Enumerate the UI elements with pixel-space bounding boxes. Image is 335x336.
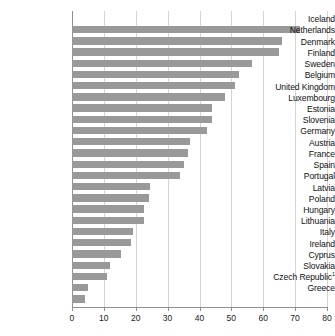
x-axis-tick-60 — [263, 307, 264, 311]
category-label-greece: Greece — [267, 283, 335, 293]
category-label-belgium: Belgium — [267, 70, 335, 80]
bar-row — [72, 260, 110, 271]
x-axis-tick-40 — [200, 307, 201, 311]
category-label-poland: Poland — [267, 194, 335, 204]
bar-ireland — [72, 250, 121, 257]
category-label-spain: Spain — [267, 160, 335, 170]
bar-lithuania — [72, 228, 133, 235]
bar-hungary — [72, 217, 144, 224]
bar-row — [72, 69, 239, 80]
bar-spain — [72, 172, 180, 179]
category-label-luxembourg: Luxembourg — [267, 93, 335, 103]
bar-estonia — [72, 116, 212, 123]
bar-denmark — [72, 48, 279, 55]
category-label-germany: Germany — [267, 126, 335, 136]
bar-finland — [72, 60, 252, 67]
bar-united-kingdom — [72, 93, 225, 100]
category-label-netherlands: Netherlands — [267, 25, 335, 35]
x-axis-tick-label-40: 40 — [195, 313, 205, 323]
bar-row — [72, 114, 212, 125]
category-label-italy: Italy — [267, 227, 335, 237]
bar-row — [72, 103, 212, 114]
bar-row — [72, 125, 207, 136]
bar-latvia — [72, 194, 149, 201]
bar-row — [72, 35, 282, 46]
bar-iceland — [72, 26, 300, 33]
bar-slovakia — [72, 273, 107, 280]
bar-row — [72, 248, 121, 259]
category-label-hungary: Hungary — [267, 205, 335, 215]
category-label-denmark: Denmark — [267, 37, 335, 47]
category-label-slovenia: Slovenia — [267, 115, 335, 125]
bar-belgium — [72, 82, 235, 89]
x-axis-tick-20 — [136, 307, 137, 311]
bar-row — [72, 159, 184, 170]
x-axis-tick-10 — [104, 307, 105, 311]
bar-row — [72, 237, 131, 248]
x-axis-tick-30 — [168, 307, 169, 311]
category-label-portugal: Portugal — [267, 171, 335, 181]
bar-row — [72, 170, 180, 181]
x-axis-tick-label-20: 20 — [131, 313, 141, 323]
x-axis-tick-label-70: 70 — [290, 313, 300, 323]
bar-row — [72, 192, 149, 203]
category-label-czech-republic: Czech Republic1 — [267, 272, 335, 282]
bar-row — [72, 147, 188, 158]
bar-row — [72, 58, 252, 69]
x-axis-tick-80 — [327, 307, 328, 311]
x-axis-tick-label-30: 30 — [163, 313, 173, 323]
category-label-finland: Finland — [267, 48, 335, 58]
category-label-slovakia: Slovakia — [267, 261, 335, 271]
bar-czech-republic — [72, 284, 88, 291]
bar-row — [72, 293, 85, 304]
category-label-estonia: Estonia — [267, 104, 335, 114]
x-axis-tick-label-50: 50 — [227, 313, 237, 323]
bar-slovenia — [72, 127, 207, 134]
category-label-iceland: Iceland — [267, 14, 335, 24]
category-label-latvia: Latvia — [267, 183, 335, 193]
x-axis-tick-50 — [231, 307, 232, 311]
bar-germany — [72, 138, 190, 145]
bar-row — [72, 181, 150, 192]
bar-row — [72, 215, 144, 226]
category-label-austria: Austria — [267, 138, 335, 148]
bar-cyprus — [72, 262, 110, 269]
bar-greece — [72, 295, 85, 302]
bar-row — [72, 46, 279, 57]
bar-portugal — [72, 183, 150, 190]
x-axis-tick-label-10: 10 — [99, 313, 109, 323]
category-label-ireland: Ireland — [267, 239, 335, 249]
x-axis-tick-label-80: 80 — [322, 313, 332, 323]
category-label-france: France — [267, 149, 335, 159]
bar-poland — [72, 205, 144, 212]
bar-row — [72, 80, 235, 91]
category-label-cyprus: Cyprus — [267, 250, 335, 260]
x-axis-tick-label-60: 60 — [258, 313, 268, 323]
bar-france — [72, 161, 184, 168]
category-label-sweden: Sweden — [267, 59, 335, 69]
bar-netherlands — [72, 37, 282, 44]
x-axis-tick-70 — [295, 307, 296, 311]
bar-row — [72, 136, 190, 147]
x-axis-tick-0 — [72, 307, 73, 311]
bar-italy — [72, 239, 131, 246]
x-axis-tick-label-0: 0 — [70, 313, 75, 323]
bar-row — [72, 204, 144, 215]
bar-row — [72, 282, 88, 293]
bar-row — [72, 226, 133, 237]
category-label-united-kingdom: United Kingdom — [267, 82, 335, 92]
bar-row — [72, 91, 225, 102]
bar-sweden — [72, 71, 239, 78]
bar-row — [72, 24, 300, 35]
bar-chart: 01020304050607080IcelandNetherlandsDenma… — [0, 0, 335, 336]
bar-luxembourg — [72, 104, 212, 111]
bar-row — [72, 271, 107, 282]
bar-austria — [72, 149, 188, 156]
category-label-lithuania: Lithuania — [267, 216, 335, 226]
